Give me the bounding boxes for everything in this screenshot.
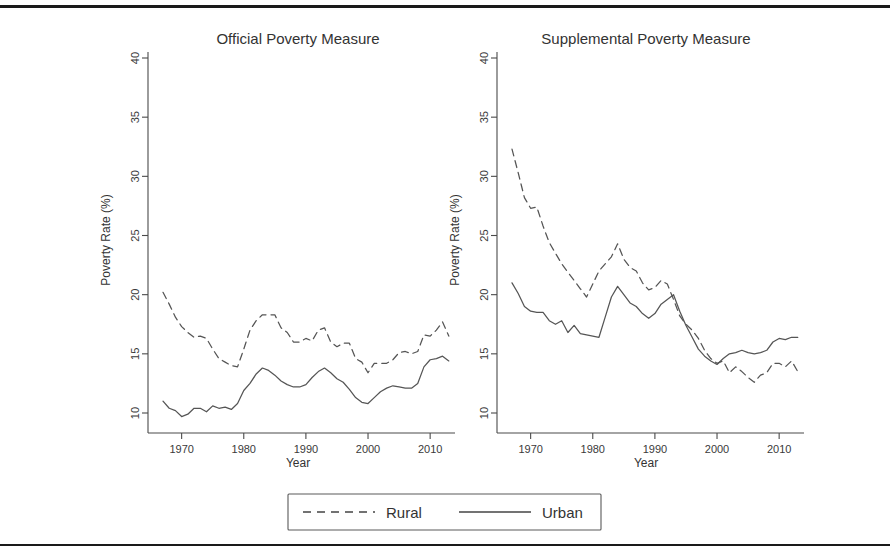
legend-label-urban: Urban — [542, 504, 583, 521]
y-axis-title-supplemental: Poverty Rate (%) — [448, 194, 462, 285]
x-tick-label: 1970 — [518, 443, 542, 455]
x-tick-label: 2010 — [767, 443, 791, 455]
x-axis-title-supplemental: Year — [634, 456, 658, 470]
y-tick-label: 40 — [129, 52, 141, 64]
series-line-rural-supplemental — [512, 149, 798, 382]
chart-legend: Rural Urban — [288, 494, 601, 530]
y-tick-label: 35 — [129, 111, 141, 123]
y-tick-label: 15 — [129, 348, 141, 360]
y-tick-label: 10 — [478, 407, 490, 419]
y-tick-label: 35 — [478, 111, 490, 123]
x-tick-label: 1980 — [581, 443, 605, 455]
series-line-urban-official — [163, 356, 449, 416]
y-tick-label: 30 — [478, 170, 490, 182]
x-tick-label: 1990 — [294, 443, 318, 455]
panel-title-supplemental: Supplemental Poverty Measure — [541, 30, 750, 47]
series-line-rural-official — [163, 292, 449, 372]
x-tick-group-supplemental: 19701980199020002010 — [518, 433, 791, 455]
y-tick-label: 20 — [129, 289, 141, 301]
panel-official-poverty-measure: Official Poverty Measure Poverty Rate (%… — [99, 30, 455, 470]
series-line-urban-supplemental — [512, 283, 798, 365]
x-axis-title-official: Year — [286, 456, 310, 470]
y-axis-title-official: Poverty Rate (%) — [99, 194, 113, 285]
y-tick-label: 25 — [129, 229, 141, 241]
y-tick-label: 25 — [478, 229, 490, 241]
panel-title-official: Official Poverty Measure — [216, 30, 379, 47]
x-tick-label: 2000 — [356, 443, 380, 455]
y-tick-label: 30 — [129, 170, 141, 182]
panel-supplemental-poverty-measure: Supplemental Poverty Measure Poverty Rat… — [448, 30, 804, 470]
chart-canvas: Official Poverty Measure Poverty Rate (%… — [0, 0, 890, 549]
y-tick-group-official: 10152025303540 — [129, 52, 148, 419]
legend-label-rural: Rural — [386, 504, 422, 521]
y-tick-label: 10 — [129, 407, 141, 419]
y-tick-label: 40 — [478, 52, 490, 64]
x-tick-group-official: 19701980199020002010 — [169, 433, 442, 455]
top-divider-rule — [0, 5, 890, 8]
x-tick-label: 1970 — [169, 443, 193, 455]
x-tick-label: 2000 — [705, 443, 729, 455]
x-tick-label: 2010 — [418, 443, 442, 455]
y-tick-group-supplemental: 10152025303540 — [478, 52, 497, 419]
poverty-figure: Official Poverty Measure Poverty Rate (%… — [0, 0, 890, 549]
x-tick-label: 1980 — [232, 443, 256, 455]
x-tick-label: 1990 — [643, 443, 667, 455]
y-tick-label: 15 — [478, 348, 490, 360]
y-tick-label: 20 — [478, 289, 490, 301]
bottom-divider-rule — [0, 544, 890, 546]
